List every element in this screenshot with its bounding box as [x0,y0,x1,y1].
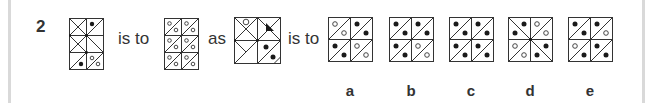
figure-a-drawing [69,18,105,72]
option-b-drawing [389,17,437,65]
option-a-label[interactable]: a [330,82,370,99]
option-d-drawing [508,17,556,65]
question-number: 2 [36,17,45,37]
right-border-rule [642,0,645,103]
option-c-drawing [449,17,497,65]
option-d-label[interactable]: d [510,82,550,99]
option-b-figure[interactable] [389,17,437,65]
option-b-label[interactable]: b [391,82,431,99]
figure-b-drawing [164,18,200,72]
option-e-drawing [568,17,616,65]
left-border-rule [8,0,11,103]
is-to-text-1: is to [118,29,149,49]
option-a-drawing [328,17,376,65]
figure-c-drawing [234,17,282,65]
option-d-figure[interactable] [508,17,556,65]
figure-a [69,18,105,72]
figure-b [164,18,200,72]
option-c-figure[interactable] [449,17,497,65]
option-e-label[interactable]: e [570,82,610,99]
is-to-text-2: is to [288,29,319,49]
option-c-label[interactable]: c [451,82,491,99]
figure-c [234,17,282,65]
option-e-figure[interactable] [568,17,616,65]
option-a-figure[interactable] [328,17,376,65]
as-text: as [208,29,226,49]
